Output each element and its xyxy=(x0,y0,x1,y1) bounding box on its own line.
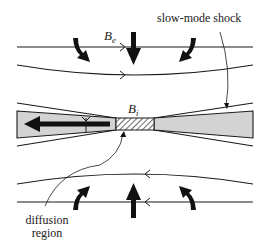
internal-field-subscript: i xyxy=(136,108,139,118)
pointer-arrowhead-icon xyxy=(120,131,126,137)
outflow-region-right xyxy=(154,111,253,138)
curved-arrow-icon xyxy=(179,186,196,210)
external-field-symbol: B xyxy=(104,28,112,43)
inflow-arrows-bottom xyxy=(73,183,196,218)
curved-arrow-icon xyxy=(73,38,90,62)
internal-field-symbol: B xyxy=(128,101,136,116)
field-line-top-curved xyxy=(17,65,253,75)
inflow-arrows-top xyxy=(73,32,196,65)
pointer-arrowhead-icon xyxy=(224,103,229,109)
internal-field-label: Bi xyxy=(128,102,138,120)
diffusion-region-label: diffusion region xyxy=(17,214,77,240)
diffusion-label-line2: region xyxy=(17,227,77,240)
arrow-up-icon xyxy=(126,183,141,200)
arrow-down-icon xyxy=(126,48,141,65)
curved-arrow-icon xyxy=(179,38,196,62)
curved-arrow-icon xyxy=(73,186,90,210)
field-line-bottom-curved xyxy=(17,174,253,184)
slow-mode-shock-label: slow-mode shock xyxy=(157,12,241,25)
external-field-label: Be xyxy=(104,29,116,47)
external-field-subscript: e xyxy=(112,35,116,45)
